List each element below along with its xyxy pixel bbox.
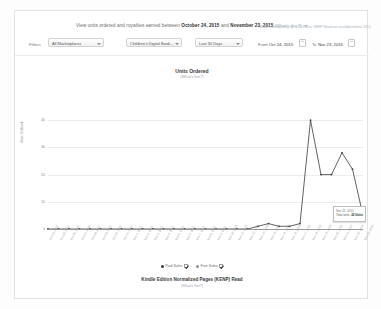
marketplace-select[interactable]: All Marketplaces	[48, 38, 104, 47]
data-delay-note: Data is delayed by up to 24 hours. KENP …	[261, 25, 372, 29]
calendar-icon-to[interactable]	[348, 39, 355, 47]
data-point[interactable]	[352, 168, 354, 170]
x-axis-labels: Oct 24, 2015Oct 25, 2015Oct 26, 2015Oct …	[21, 239, 365, 265]
to-label: To	[312, 42, 316, 47]
header-prefix: View units ordered and royalties earned …	[76, 23, 180, 28]
date-range-group: From Oct 24, 2015 To Nov 23, 2015	[258, 37, 368, 55]
kenp-chart-title: Kindle Edition Normalized Pages (KENP) R…	[15, 277, 369, 282]
filters-label: Filters	[29, 42, 41, 47]
book-select[interactable]: Children's Digital Book...	[126, 38, 182, 47]
header-date-start: October 24, 2015	[181, 23, 219, 28]
from-date-value[interactable]: Oct 24, 2015	[269, 42, 293, 47]
period-select[interactable]: Last 30 Days	[195, 38, 243, 47]
legend-item-label: Paid Sales	[165, 264, 182, 268]
filters-row: Filters All Marketplaces Children's Digi…	[15, 37, 369, 55]
legend-checkbox[interactable]	[219, 264, 223, 268]
to-date-value[interactable]: Nov 23, 2015	[318, 42, 343, 47]
tooltip-label: Total units:	[336, 213, 350, 217]
units-ordered-chart: Units Ordered 010203040	[21, 85, 365, 240]
kdp-sales-dashboard-page: View units ordered and royalties earned …	[0, 0, 381, 309]
chevron-down-icon	[175, 43, 179, 45]
marketplace-select-value: All Marketplaces	[52, 41, 81, 46]
legend-item-paid-sales[interactable]: Paid Sales	[161, 264, 188, 268]
data-point[interactable]	[320, 174, 322, 176]
calendar-icon-from[interactable]	[299, 39, 306, 47]
report-panel: View units ordered and royalties earned …	[14, 10, 368, 299]
header-mid: and	[221, 23, 229, 28]
legend-item-label: Free Sales	[200, 264, 217, 268]
chart-whats-this-link[interactable]: (What's this?)	[15, 75, 369, 79]
data-point[interactable]	[331, 174, 333, 176]
book-select-value: Children's Digital Book...	[130, 41, 173, 46]
data-point[interactable]	[310, 119, 312, 121]
header-divider	[15, 55, 369, 56]
kenp-whats-this-link[interactable]: (What's this?)	[15, 284, 369, 288]
legend-item-free-sales[interactable]: Free Sales	[196, 264, 223, 268]
data-point[interactable]	[341, 152, 343, 154]
tooltip-value: 22 Units	[351, 213, 363, 217]
data-point-tooltip: Nov 22, 2015 Total units: 22 Units	[333, 206, 366, 222]
chevron-down-icon	[236, 43, 240, 45]
legend-checkbox[interactable]	[184, 264, 188, 268]
period-select-value: Last 30 Days	[199, 41, 222, 46]
legend-marker-icon	[161, 265, 164, 268]
from-label: From	[258, 42, 268, 47]
series-paid-sales	[21, 85, 365, 240]
legend-marker-icon	[196, 265, 199, 268]
chart-title: Units Ordered	[15, 68, 369, 74]
chart-legend: Paid SalesFree Sales	[15, 264, 369, 268]
chevron-down-icon	[97, 43, 101, 45]
